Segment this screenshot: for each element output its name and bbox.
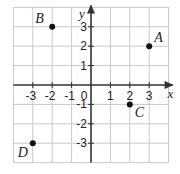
y-tick-label: -1 — [76, 97, 87, 111]
y-tick-label: 3 — [80, 20, 87, 34]
point-b-label: B — [35, 11, 44, 26]
x-tick-label: -3 — [25, 89, 36, 103]
x-tick-label: 3 — [146, 89, 153, 103]
y-tick-label: -3 — [76, 136, 87, 150]
point-d-marker — [30, 140, 36, 146]
point-c-label: C — [135, 105, 145, 120]
x-tick-label: -2 — [45, 89, 56, 103]
y-axis-arrow-icon — [87, 4, 95, 13]
x-tick-label: 2 — [126, 89, 133, 103]
coordinate-plane: x y -3-2-10123321-1-2-3 ABCD — [0, 0, 180, 174]
y-tick-label: 1 — [80, 59, 87, 73]
point-a-marker — [146, 43, 152, 49]
x-axis-label: x — [167, 86, 174, 101]
x-tick-label: -1 — [64, 89, 75, 103]
x-tick-label: 1 — [107, 89, 114, 103]
point-b-marker — [49, 24, 55, 30]
y-tick-label: -2 — [76, 117, 87, 131]
point-d-label: D — [17, 145, 28, 160]
y-tick-label: 2 — [80, 39, 87, 53]
point-c-marker — [127, 101, 133, 107]
point-a-label: A — [153, 30, 163, 45]
